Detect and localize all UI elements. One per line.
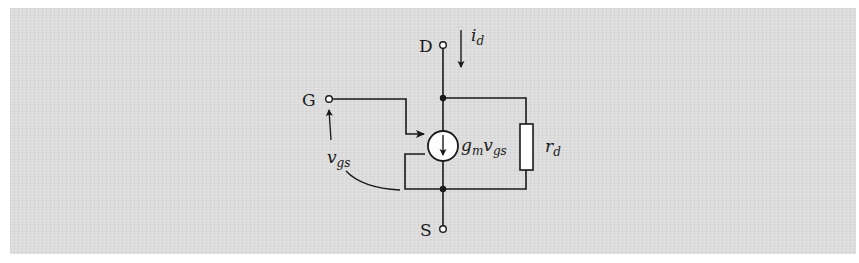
junction-bottom	[440, 186, 446, 192]
current-source-label: gmvgs	[461, 135, 507, 158]
vgs-curve	[346, 171, 400, 190]
resistor-icon	[520, 124, 533, 170]
drain-label: D	[419, 36, 433, 56]
current-source-icon	[428, 131, 458, 161]
vgs-label: vgs	[327, 147, 350, 170]
gate-terminal	[326, 96, 333, 103]
vgs-arrow-icon	[329, 110, 331, 140]
drain-terminal	[440, 42, 447, 49]
source-label: S	[420, 220, 432, 240]
resistor-label: rd	[545, 136, 561, 159]
bottom-rail-wire	[405, 154, 526, 189]
top-rail-wire	[443, 98, 526, 124]
circuit-diagram: D G S id vgs gmvgs rd	[0, 0, 859, 263]
drain-current-label: id	[471, 25, 484, 48]
source-terminal	[440, 226, 447, 233]
gate-label: G	[302, 90, 316, 110]
junction-top	[440, 95, 446, 101]
gate-control-wire	[332, 99, 424, 134]
